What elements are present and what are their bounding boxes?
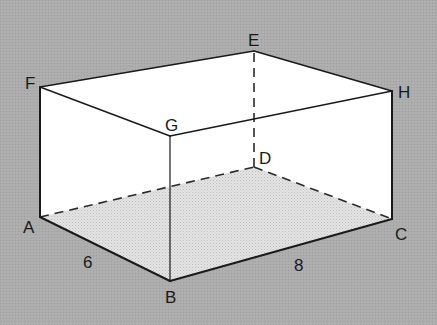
vertex-label-F: F [25, 74, 35, 93]
vertex-label-H: H [398, 83, 410, 102]
edge-length-AB: 6 [83, 253, 92, 272]
vertex-label-G: G [165, 116, 178, 135]
vertex-label-E: E [248, 31, 259, 50]
vertex-label-C: C [395, 225, 407, 244]
edge-length-BC: 8 [294, 256, 303, 275]
vertex-label-A: A [23, 218, 35, 237]
vertex-label-D: D [259, 149, 271, 168]
vertex-label-B: B [165, 288, 176, 307]
diagram-canvas: F E H G D A B C 6 8 [0, 0, 437, 325]
prism-diagram: F E H G D A B C 6 8 [0, 0, 437, 325]
